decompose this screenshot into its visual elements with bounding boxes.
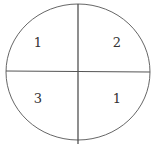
horizontal-divider xyxy=(6,71,150,72)
quadrant-bottom-right-label: 1 xyxy=(113,91,121,106)
quadrant-top-left-label: 1 xyxy=(34,35,42,50)
quadrant-bottom-left-label: 3 xyxy=(34,91,42,106)
quadrant-circle-diagram: 1 2 3 1 xyxy=(0,0,156,144)
quadrant-top-right-label: 2 xyxy=(113,35,121,50)
